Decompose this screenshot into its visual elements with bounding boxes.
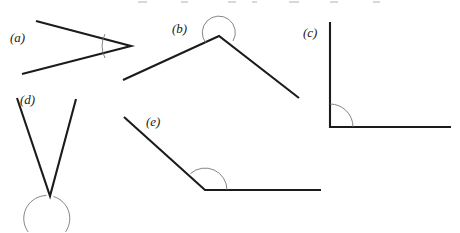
angle-e-label: (e) bbox=[146, 114, 160, 129]
angle-c-arc bbox=[330, 104, 353, 127]
angle-d-label: (d) bbox=[20, 92, 35, 107]
angle-shape-d: (d) bbox=[17, 92, 76, 232]
figure-canvas: (a) (b) (c) (d) (e) bbox=[0, 0, 460, 232]
scan-artifacts bbox=[138, 1, 380, 3]
angle-shape-c: (c) bbox=[303, 22, 451, 127]
angle-diagram-figure: (a) (b) (c) (d) (e) bbox=[0, 0, 460, 232]
angle-shape-a: (a) bbox=[10, 21, 131, 74]
angle-d-arms bbox=[17, 98, 76, 196]
angle-b-arms bbox=[123, 36, 299, 98]
angle-a-label: (a) bbox=[10, 30, 25, 45]
angle-b-arc bbox=[202, 16, 235, 43]
angle-d-arc bbox=[24, 196, 70, 233]
angle-a-arms bbox=[22, 21, 131, 74]
angle-e-arc bbox=[191, 168, 228, 190]
angle-c-arms bbox=[330, 22, 451, 127]
angle-b-label: (b) bbox=[172, 21, 187, 36]
angle-shape-e: (e) bbox=[124, 114, 321, 190]
angle-shape-b: (b) bbox=[123, 16, 299, 98]
angle-c-label: (c) bbox=[303, 25, 317, 40]
